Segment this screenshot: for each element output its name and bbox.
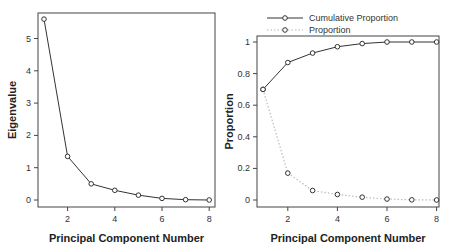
data-point-marker [261,87,266,92]
data-point-marker [335,44,340,49]
series-cumulative-proportion [261,40,439,92]
y-tick-label: 0.4 [237,132,250,142]
data-point-marker [286,171,291,176]
data-point-marker [42,17,47,22]
data-point-marker [410,40,415,45]
data-point-marker [207,198,212,203]
data-point-marker [310,51,315,56]
x-axis-title: Principal Component Number [270,232,426,244]
plot-frame [38,13,215,207]
series-line [263,89,437,200]
legend: Cumulative ProportionProportion [267,13,398,35]
y-tick-label: 0.6 [237,100,250,110]
data-point-marker [434,198,439,203]
series-proportion [261,87,439,202]
data-point-marker [360,41,365,46]
series-line [44,19,209,200]
data-point-marker [360,195,365,200]
legend-entry-label: Proportion [309,25,351,35]
data-point-marker [286,60,291,65]
plot-frame [257,36,439,207]
legend-marker-icon [283,28,288,33]
y-tick-label: 0.2 [237,163,250,173]
data-point-marker [434,40,439,45]
x-tick-label: 2 [285,214,290,224]
data-point-marker [410,198,415,203]
data-point-marker [183,197,188,202]
y-tick-label: 0 [26,195,31,205]
eigenvalue-chart: 0123452468Principal Component NumberEige… [6,13,215,244]
y-tick-label: 5 [26,34,31,44]
legend-entry-label: Cumulative Proportion [309,13,398,23]
y-axis-title: Proportion [223,93,235,149]
x-tick-label: 8 [434,214,439,224]
y-tick-label: 1 [26,163,31,173]
data-point-marker [160,196,165,201]
data-point-marker [65,154,70,159]
y-tick-label: 2 [26,130,31,140]
y-tick-label: 3 [26,98,31,108]
data-point-marker [89,182,94,187]
x-tick-label: 6 [159,214,164,224]
series-line [263,42,437,89]
x-tick-label: 6 [384,214,389,224]
y-tick-label: 0.8 [237,69,250,79]
x-tick-label: 8 [207,214,212,224]
data-point-marker [385,40,390,45]
data-point-marker [310,188,315,193]
series-eigenvalue [42,17,212,202]
x-tick-label: 4 [112,214,117,224]
data-point-marker [335,192,340,197]
data-point-marker [113,188,118,193]
y-tick-label: 1 [245,37,250,47]
x-tick-label: 4 [335,214,340,224]
y-tick-label: 4 [26,66,31,76]
data-point-marker [385,197,390,202]
x-axis-title: Principal Component Number [49,232,205,244]
y-axis-title: Eigenvalue [6,81,18,139]
y-tick-label: 0 [245,195,250,205]
legend-marker-icon [283,16,288,21]
data-point-marker [136,193,141,198]
scree-plots: 0123452468Principal Component NumberEige… [0,0,455,252]
x-tick-label: 2 [65,214,70,224]
proportion-chart: 00.20.40.60.812468Principal Component Nu… [223,13,439,244]
